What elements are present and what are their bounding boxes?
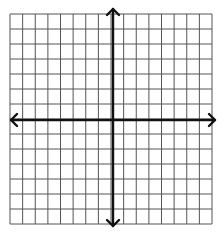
axes — [11, 9, 215, 226]
coordinate-plane — [0, 0, 218, 240]
